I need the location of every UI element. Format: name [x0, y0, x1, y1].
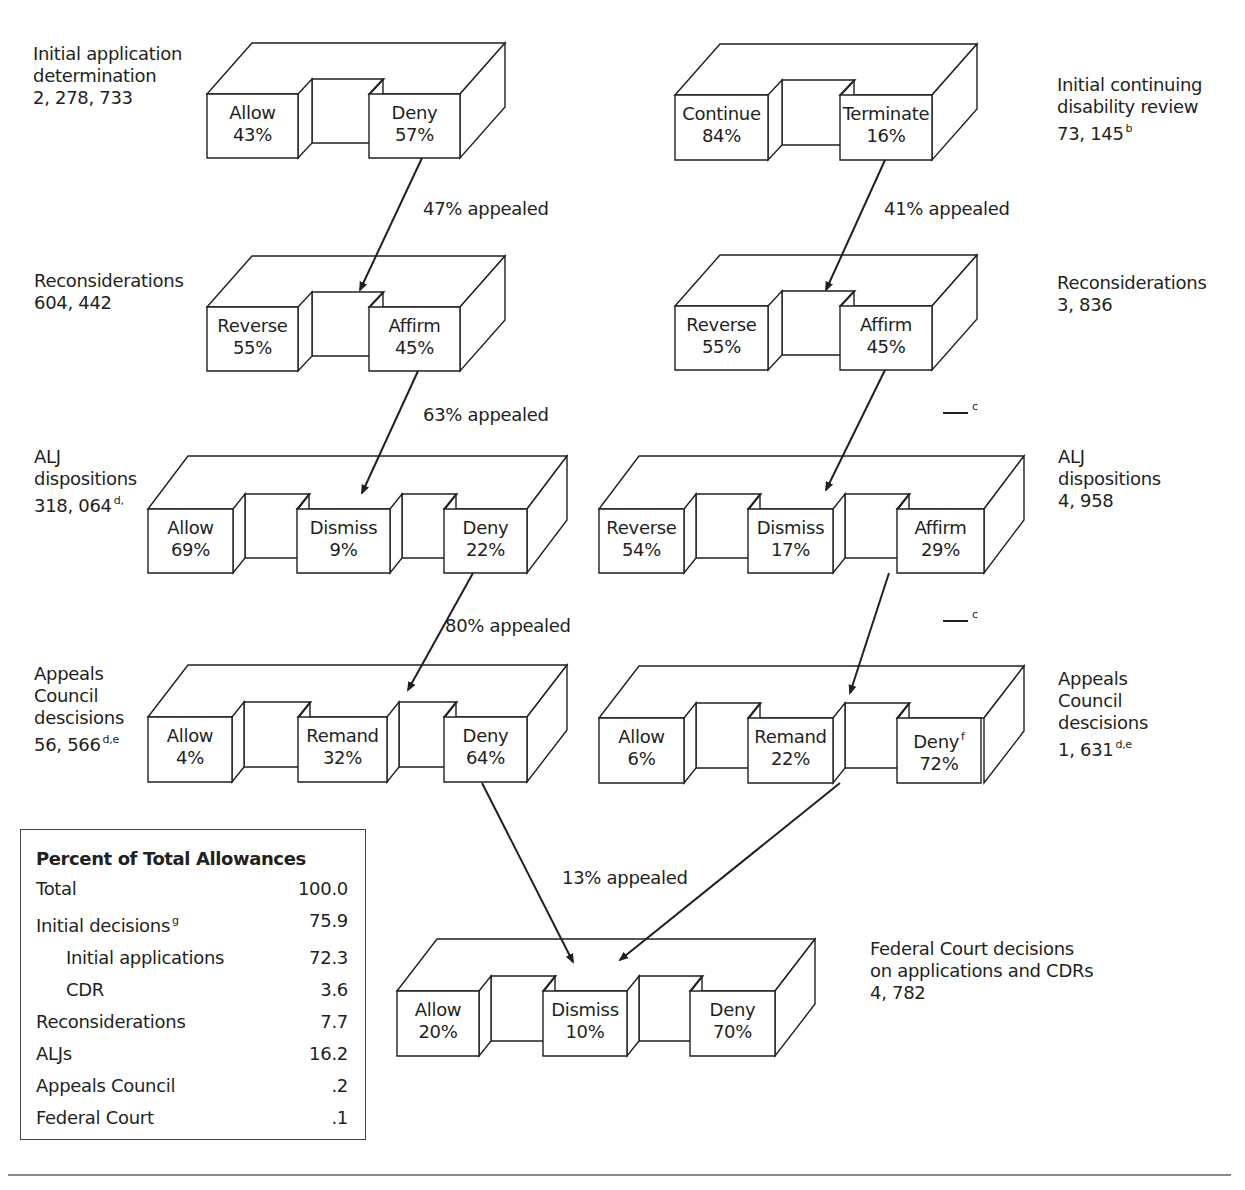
face-percent: 6% — [599, 748, 684, 770]
appeal-rate-label: 63% appealed — [423, 404, 549, 425]
footnote-superscript: d, — [114, 494, 124, 507]
face-outcome: Dismiss — [543, 999, 627, 1021]
summary-row-label: Total — [36, 873, 77, 905]
face-label-dismiss: Dismiss10% — [543, 999, 627, 1043]
stage-count: 3, 836 — [1057, 294, 1206, 316]
summary-row-label: Federal Court — [36, 1102, 154, 1134]
face-percent: 72% — [897, 753, 981, 775]
notch-side-wall — [833, 703, 845, 783]
stage-caption-alj-applications: ALJdispositions318, 064d, — [34, 446, 137, 517]
face-outcome: Allow — [207, 102, 298, 124]
stage-name: Reconsiderations — [34, 270, 183, 292]
stage-caption-reconsideration-cdr: Reconsiderations3, 836 — [1057, 272, 1206, 316]
face-outcome: Affirm — [369, 315, 460, 337]
face-percent: 64% — [444, 747, 527, 769]
stage-count: 4, 782 — [870, 982, 1093, 1004]
notch-side-wall — [768, 80, 782, 160]
summary-row: Appeals Council.2 — [36, 1070, 348, 1102]
face-outcome: Denyf — [897, 726, 981, 753]
summary-row: Federal Court.1 — [36, 1102, 348, 1134]
face-outcome: Affirm — [840, 314, 932, 336]
face-outcome: Allow — [148, 725, 232, 747]
face-outcome: Allow — [397, 999, 479, 1021]
notch-side-wall — [232, 702, 244, 782]
face-label-dismiss: Dismiss9% — [297, 517, 390, 561]
face-label-affirm: Affirm45% — [840, 314, 932, 358]
summary-row-label: CDR — [36, 974, 104, 1006]
footnote-mark: c — [972, 608, 978, 621]
face-label-remand: Remand32% — [298, 725, 387, 769]
stage-caption-reconsideration-applications: Reconsiderations604, 442 — [34, 270, 183, 314]
summary-title: Percent of Total Allowances — [36, 848, 348, 870]
face-label-reverse: Reverse55% — [207, 315, 298, 359]
face-outcome: Remand — [298, 725, 387, 747]
face-percent: 16% — [840, 125, 932, 147]
face-outcome: Deny — [369, 102, 460, 124]
stage-caption-appeals-council-cdr: AppealsCouncildescisions1, 631d,e — [1058, 668, 1148, 761]
stage-name: Reconsiderations — [1057, 272, 1206, 294]
stage-count: 73, 145b — [1057, 118, 1202, 145]
face-outcome: Deny — [444, 725, 527, 747]
notch-side-wall — [298, 292, 312, 371]
face-percent: 45% — [840, 336, 932, 358]
notch-side-wall — [833, 494, 845, 573]
face-label-allow: Allow4% — [148, 725, 232, 769]
box-top-surface — [148, 665, 567, 717]
stage-caption-initial-cdr: Initial continuingdisability review73, 1… — [1057, 74, 1202, 145]
face-label-deny: Deny22% — [444, 517, 527, 561]
summary-row-value: 3.6 — [320, 974, 348, 1006]
notch-side-wall — [298, 79, 312, 158]
stage-name: Appeals — [34, 663, 124, 685]
face-percent: 45% — [369, 337, 460, 359]
footnote-superscript: g — [172, 914, 179, 927]
face-outcome: Reverse — [207, 315, 298, 337]
face-label-deny: Deny57% — [369, 102, 460, 146]
box-top-surface — [599, 456, 1024, 509]
appeal-arrow — [482, 783, 573, 962]
box-top-surface — [148, 456, 567, 509]
face-percent: 4% — [148, 747, 232, 769]
face-percent: 22% — [444, 539, 527, 561]
face-outcome: Reverse — [599, 517, 684, 539]
summary-row-value: 7.7 — [320, 1006, 348, 1038]
face-label-allow: Allow20% — [397, 999, 479, 1043]
stage-caption-initial-application: Initial applicationdetermination2, 278, … — [33, 43, 182, 109]
face-percent: 55% — [675, 336, 768, 358]
face-outcome: Continue — [675, 103, 768, 125]
stage-count: 2, 278, 733 — [33, 87, 182, 109]
summary-row: Reconsiderations7.7 — [36, 1006, 348, 1038]
stage-name: descisions — [1058, 712, 1148, 734]
face-label-allow: Allow43% — [207, 102, 298, 146]
appeal-rate-label: 80% appealed — [445, 615, 571, 636]
face-label-allow: Allow6% — [599, 726, 684, 770]
stage-name: determination — [33, 65, 182, 87]
not-applicable-dash — [943, 412, 968, 414]
face-outcome: Reverse — [675, 314, 768, 336]
stage-caption-alj-cdr: ALJdispositions4, 958 — [1058, 446, 1161, 512]
face-percent: 9% — [297, 539, 390, 561]
stage-caption-federal-court: Federal Court decisionson applications a… — [870, 938, 1093, 1004]
face-outcome: Terminate — [840, 103, 932, 125]
stage-name: Federal Court decisions — [870, 938, 1093, 960]
stage-name: Appeals — [1058, 668, 1148, 690]
face-outcome: Allow — [599, 726, 684, 748]
face-percent: 10% — [543, 1021, 627, 1043]
face-label-deny: Deny70% — [690, 999, 775, 1043]
stage-name: Initial application — [33, 43, 182, 65]
footnote-superscript: b — [1126, 122, 1133, 135]
summary-row-label-text: Reconsiderations — [36, 1011, 185, 1032]
face-percent: 22% — [748, 748, 833, 770]
notch-side-wall — [479, 976, 491, 1056]
face-label-continue: Continue84% — [675, 103, 768, 147]
notch-side-wall — [768, 291, 782, 370]
notch-side-wall — [627, 976, 639, 1056]
face-percent: 57% — [369, 124, 460, 146]
stage-name: ALJ — [1058, 446, 1161, 468]
summary-row-value: .2 — [331, 1070, 348, 1102]
summary-row: Initial applications72.3 — [36, 942, 348, 974]
face-label-remand: Remand22% — [748, 726, 833, 770]
stage-count: 1, 631d,e — [1058, 734, 1148, 761]
footnote-mark: c — [972, 400, 978, 413]
face-label-reverse: Reverse54% — [599, 517, 684, 561]
appeal-rate-label: 41% appealed — [884, 198, 1010, 219]
